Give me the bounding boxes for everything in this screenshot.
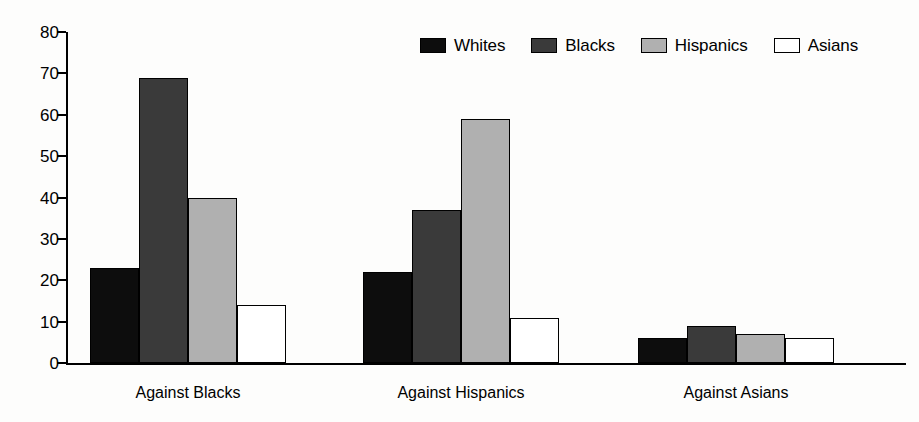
bar-asians-against-asians: [785, 338, 834, 363]
y-tick-label: 0: [50, 355, 59, 372]
y-tick-label: 30: [40, 230, 59, 247]
y-tick-label: 50: [40, 148, 59, 165]
y-tick-label: 10: [40, 313, 59, 330]
bar-whites-against-asians: [638, 338, 687, 363]
y-tick-label: 70: [40, 65, 59, 82]
category-label-against-blacks: Against Blacks: [136, 385, 241, 401]
bar-blacks-against-hispanics: [412, 210, 461, 363]
category-label-against-asians: Against Asians: [684, 385, 789, 401]
bar-blacks-against-blacks: [139, 78, 188, 363]
bar-asians-against-hispanics: [510, 318, 559, 364]
plot-area: 01020304050607080: [66, 32, 906, 363]
bar-hispanics-against-blacks: [188, 198, 237, 364]
bar-asians-against-blacks: [237, 305, 286, 363]
y-tick-label: 20: [40, 272, 59, 289]
x-axis-line: [66, 363, 906, 365]
bar-blacks-against-asians: [687, 326, 736, 363]
bar-whites-against-hispanics: [363, 272, 412, 363]
category-label-against-hispanics: Against Hispanics: [397, 385, 524, 401]
bar-hispanics-against-hispanics: [461, 119, 510, 363]
bar-whites-against-blacks: [90, 268, 139, 363]
y-tick-label: 40: [40, 189, 59, 206]
y-axis-line: [66, 32, 68, 363]
y-tick-label: 60: [40, 106, 59, 123]
y-tick-label: 80: [40, 24, 59, 41]
bar-hispanics-against-asians: [736, 334, 785, 363]
bar-chart: WhitesBlacksHispanicsAsians 010203040506…: [0, 0, 919, 422]
